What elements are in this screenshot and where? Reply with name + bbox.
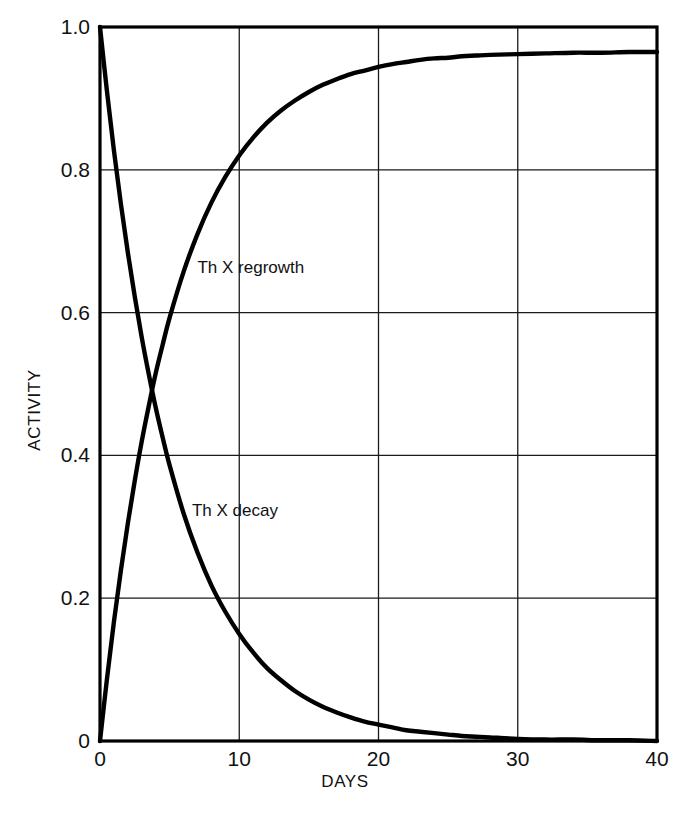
- y-tick-label: 0.8: [61, 158, 90, 181]
- x-axis-title: DAYS: [321, 772, 368, 791]
- curve-label: Th X regrowth: [197, 258, 304, 277]
- x-tick-label: 20: [367, 747, 390, 770]
- chart-background: [0, 0, 685, 814]
- x-tick-label: 40: [645, 747, 668, 770]
- x-tick-label: 10: [228, 747, 251, 770]
- y-tick-label: 0.6: [61, 301, 90, 324]
- chart-figure: 010203040 00.20.40.60.81.0 DAYS ACTIVITY…: [0, 0, 685, 814]
- y-axis-title: ACTIVITY: [25, 369, 44, 450]
- x-tick-label: 30: [506, 747, 529, 770]
- y-tick-label: 0.4: [61, 443, 91, 466]
- curve-label: Th X decay: [192, 501, 278, 520]
- y-tick-label: 1.0: [61, 15, 90, 38]
- x-tick-label: 0: [94, 747, 106, 770]
- y-tick-label: 0.2: [61, 586, 90, 609]
- y-tick-label: 0: [78, 729, 90, 752]
- activity-vs-days-chart: 010203040 00.20.40.60.81.0 DAYS ACTIVITY…: [0, 0, 685, 814]
